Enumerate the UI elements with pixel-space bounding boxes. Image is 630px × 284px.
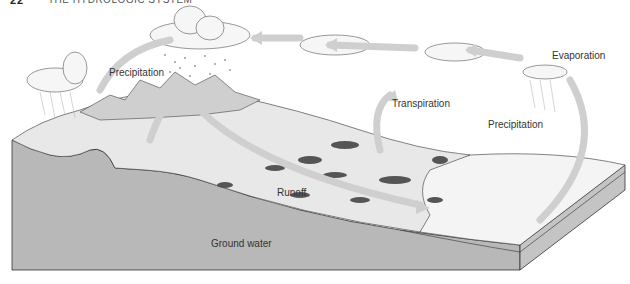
label-runoff: Runoff xyxy=(277,187,306,198)
label-transpiration: Transpiration xyxy=(392,98,450,109)
label-precipitation-right: Precipitation xyxy=(488,119,543,130)
arrow-head xyxy=(250,31,262,45)
label-evaporation: Evaporation xyxy=(552,50,605,61)
label-ground-water: Ground water xyxy=(211,238,272,249)
label-precipitation-left: Precipitation xyxy=(109,67,164,78)
hydrologic-cycle-diagram xyxy=(0,0,630,284)
